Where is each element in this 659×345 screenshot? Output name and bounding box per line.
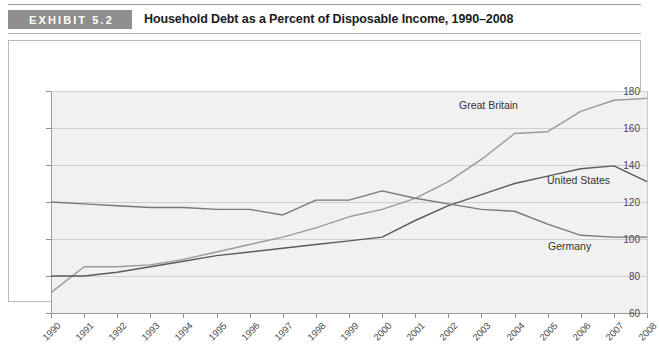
x-tick-label: 1992 [100,320,129,345]
x-tick-mark [481,314,482,318]
x-tick-label: 2001 [398,320,427,345]
x-tick-label: 1998 [299,320,328,345]
x-tick-mark [581,314,582,318]
x-tick-label: 1991 [67,320,96,345]
x-tick-label: 2005 [530,320,559,345]
series-label-united-states: United States [547,174,610,186]
x-tick-label: 1999 [332,320,361,345]
x-tick-mark [117,314,118,318]
x-tick-label: 1993 [133,320,162,345]
x-tick-mark [647,314,648,318]
x-tick-label: 2000 [365,320,394,345]
x-tick-mark [515,314,516,318]
x-tick-mark [183,314,184,318]
x-tick-label: 2007 [597,320,626,345]
x-tick-mark [283,314,284,318]
x-tick-mark [150,314,151,318]
exhibit-badge: EXHIBIT 5.2 [8,10,132,29]
x-tick-mark [250,314,251,318]
x-tick-label: 2002 [431,320,460,345]
x-tick-label: 2006 [564,320,593,345]
x-tick-mark [51,314,52,318]
x-tick-label: 1994 [166,320,195,345]
x-tick-label: 2008 [630,320,659,345]
chart-frame: 6080100120140160180 19901991199219931994… [8,40,641,302]
x-tick-mark [548,314,549,318]
series-line-germany [51,191,647,237]
top-divider [8,4,641,5]
x-tick-mark [448,314,449,318]
header-divider [8,33,641,34]
series-label-germany: Germany [548,240,591,252]
x-tick-label: 1990 [34,320,63,345]
x-tick-mark [614,314,615,318]
exhibit-title: Household Debt as a Percent of Disposabl… [144,12,513,26]
x-tick-mark [217,314,218,318]
x-tick-label: 2004 [497,320,526,345]
x-tick-mark [382,314,383,318]
x-tick-label: 1997 [266,320,295,345]
x-tick-mark [316,314,317,318]
series-line-great-britain [51,98,647,292]
x-tick-label: 2003 [464,320,493,345]
x-tick-mark [349,314,350,318]
x-tick-label: 1995 [199,320,228,345]
series-label-great-britain: Great Britain [459,99,518,111]
x-tick-label: 1996 [232,320,261,345]
x-tick-mark [415,314,416,318]
series-lines [51,91,648,314]
x-tick-mark [84,314,85,318]
